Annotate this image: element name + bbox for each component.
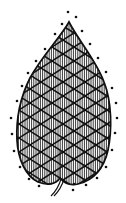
leaf-illustration: [0, 0, 126, 203]
border-dot: [81, 30, 84, 33]
border-dot: [21, 85, 24, 88]
border-dot: [27, 72, 30, 75]
border-dot: [38, 185, 41, 188]
border-dot: [10, 117, 13, 120]
border-dot: [67, 11, 70, 14]
border-dot: [13, 150, 16, 153]
border-dot: [97, 57, 100, 60]
border-dot: [73, 183, 76, 186]
border-dot: [114, 132, 117, 135]
border-dot: [28, 178, 31, 181]
border-dot: [54, 33, 57, 36]
border-dot: [16, 100, 19, 103]
border-dot: [75, 16, 78, 19]
border-dot: [35, 60, 38, 63]
border-dot: [115, 102, 118, 105]
border-dot: [11, 133, 14, 136]
border-dot: [61, 23, 64, 26]
border-dot: [44, 48, 47, 51]
border-dot: [105, 71, 108, 74]
border-dot: [111, 149, 114, 152]
border-dot: [96, 177, 99, 180]
border-dot: [116, 117, 119, 120]
border-dot: [85, 184, 88, 187]
border-dot: [89, 43, 92, 46]
border-dot: [105, 166, 108, 169]
leaf-drawing: [0, 0, 126, 203]
border-dot: [72, 189, 75, 192]
border-dot: [19, 166, 22, 169]
border-dot: [111, 87, 114, 90]
